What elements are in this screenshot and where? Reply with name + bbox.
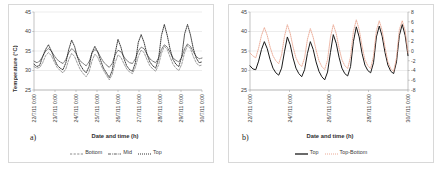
chart-panel-b: Temperature (°C) Differential Temp. (°C)… (220, 0, 440, 171)
panel-b-legend-item-top[interactable]: Top (295, 150, 319, 155)
svg-text:-6: -6 (411, 77, 416, 83)
svg-text:22/7/11 0:00: 22/7/11 0:00 (31, 94, 37, 123)
svg-text:40: 40 (25, 28, 31, 34)
svg-text:29/7/11 0:00: 29/7/11 0:00 (178, 94, 184, 123)
svg-text:45: 45 (241, 9, 247, 15)
svg-text:24/7/11 0:00: 24/7/11 0:00 (287, 94, 293, 123)
svg-text:2: 2 (411, 38, 414, 44)
legend-line-swatch-icon (295, 151, 308, 155)
svg-text:40: 40 (241, 28, 247, 34)
svg-text:26/7/11 0:00: 26/7/11 0:00 (326, 94, 332, 123)
legend-line-swatch-icon (138, 151, 151, 155)
panel-a-legend-item-top[interactable]: Top (138, 150, 162, 155)
svg-text:28/7/11 0:00: 28/7/11 0:00 (366, 94, 372, 123)
svg-text:35: 35 (241, 48, 247, 54)
svg-text:-4: -4 (411, 67, 416, 73)
svg-text:25: 25 (25, 87, 31, 93)
panel-a-x-axis-title: Date and time (h) (30, 133, 200, 139)
panel-b-legend: TopTop-Bottom (245, 150, 417, 155)
svg-text:25: 25 (241, 87, 247, 93)
panel-b-legend-item-top-bottom[interactable]: Top-Bottom (325, 150, 368, 155)
svg-text:45: 45 (25, 9, 31, 15)
svg-text:30: 30 (25, 67, 31, 73)
svg-text:23/7/11 0:00: 23/7/11 0:00 (52, 94, 58, 123)
legend-label: Bottom (85, 150, 102, 155)
svg-text:27/7/11 0:00: 27/7/11 0:00 (136, 94, 142, 123)
panel-b-plot: 2530354045-8-6-4-20246822/7/11 0:0024/7/… (220, 0, 440, 171)
svg-text:26/7/11 0:00: 26/7/11 0:00 (115, 94, 121, 123)
svg-text:0: 0 (411, 48, 414, 54)
svg-text:35: 35 (25, 48, 31, 54)
legend-label: Mid (123, 150, 132, 155)
panel-a-legend-item-bottom[interactable]: Bottom (70, 150, 102, 155)
legend-line-swatch-icon (325, 151, 338, 155)
panel-b-x-axis-title: Date and time (h) (250, 133, 410, 139)
svg-text:22/7/11 0:00: 22/7/11 0:00 (247, 94, 253, 123)
svg-text:-2: -2 (411, 58, 416, 64)
svg-text:-8: -8 (411, 87, 416, 93)
svg-text:30: 30 (241, 67, 247, 73)
legend-label: Top (310, 150, 319, 155)
legend-line-swatch-icon (108, 151, 121, 155)
svg-text:25/7/11 0:00: 25/7/11 0:00 (94, 94, 100, 123)
panel-a-label: a) (30, 133, 36, 142)
panel-b-label: b) (242, 133, 249, 142)
legend-label: Top-Bottom (340, 150, 368, 155)
svg-text:28/7/11 0:00: 28/7/11 0:00 (157, 94, 163, 123)
chart-panel-a: Temperature (°C) 253035404522/7/11 0:002… (0, 0, 220, 171)
panel-a-legend-item-mid[interactable]: Mid (108, 150, 132, 155)
svg-text:4: 4 (411, 28, 414, 34)
svg-text:6: 6 (411, 19, 414, 25)
svg-text:8: 8 (411, 9, 414, 15)
svg-text:24/7/11 0:00: 24/7/11 0:00 (73, 94, 79, 123)
panel-a-legend: BottomMidTop (30, 150, 202, 155)
svg-text:30/7/11 0:00: 30/7/11 0:00 (199, 94, 205, 123)
legend-line-swatch-icon (70, 151, 83, 155)
svg-text:30/7/11 0:00: 30/7/11 0:00 (405, 94, 411, 123)
figure-two-panel-temperature-charts: Temperature (°C) 253035404522/7/11 0:002… (0, 0, 440, 171)
legend-label: Top (153, 150, 162, 155)
panel-a-plot: 253035404522/7/11 0:0023/7/11 0:0024/7/1… (0, 0, 220, 171)
